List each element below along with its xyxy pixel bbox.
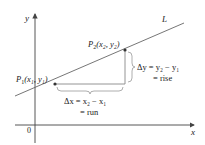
rise-formula: Δy = y₂ − y₁ [137,62,179,72]
rise-text: = rise [153,73,172,83]
rise-brace [128,52,135,82]
origin-label: 0 [27,126,31,135]
p2-coords: (x₂, y₂) [96,39,120,49]
x-axis-label: x [190,127,195,137]
p1-label: P1(x₁, y₁) [15,74,48,85]
run-text: = run [80,107,99,117]
slope-diagram: y x 0 L P1(x₁, y₁) P2(x₂, y₂) Δx = x₂ − … [0,0,205,145]
line-label: L [161,14,167,24]
point-p2 [123,48,126,51]
point-p1 [53,82,56,85]
line-l [15,23,184,96]
p1-coords: (x₁, y₁) [24,74,48,84]
p2-label: P2(x₂, y₂) [87,39,120,50]
run-formula: Δx = x₂ − x₁ [64,96,106,106]
run-brace [57,87,123,94]
y-axis-label: y [24,13,29,23]
